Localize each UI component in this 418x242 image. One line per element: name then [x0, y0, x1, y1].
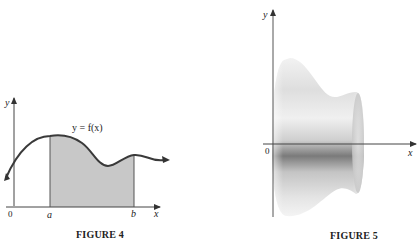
y-axis-label: y: [262, 9, 268, 20]
curve-right-arrow: [162, 156, 170, 163]
curve-label: y = f(x): [72, 122, 103, 134]
x-axis-label: x: [407, 147, 413, 158]
tick-label-a: a: [47, 209, 52, 220]
figure-5-caption: FIGURE 5: [330, 230, 378, 241]
y-axis-label: y: [4, 97, 10, 108]
figure-5-graph: y x 0: [218, 0, 418, 242]
figure-4-caption: FIGURE 4: [76, 229, 124, 240]
origin-label: 0: [8, 209, 13, 219]
x-axis-label: x: [153, 208, 159, 219]
solid-end-cap: [352, 93, 364, 193]
figure-5: y x 0: [218, 0, 418, 242]
figure-4: y x 0 a b y = f(x): [0, 0, 210, 242]
shaded-area: [50, 135, 134, 207]
tick-label-b: b: [131, 208, 136, 219]
origin-label: 0: [265, 146, 270, 156]
solid-edge-highlight: [272, 58, 364, 216]
figure-4-graph: y x 0 a b y = f(x): [0, 0, 210, 242]
